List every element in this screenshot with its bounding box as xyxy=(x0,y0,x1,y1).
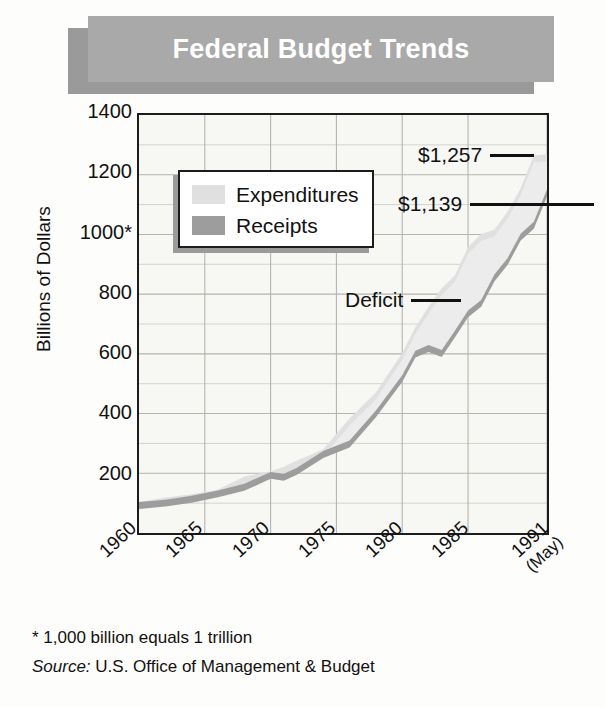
annotation-deficit: Deficit xyxy=(345,288,461,312)
annotation-expenditures-value: $1,257 xyxy=(418,143,534,167)
annotation-leader-line xyxy=(411,299,461,302)
footnotes: * 1,000 billion equals 1 trillion Source… xyxy=(32,628,572,677)
y-tick-label: 800 xyxy=(12,281,132,304)
y-tick-label: 1400 xyxy=(12,100,132,123)
annotation-deficit-text: Deficit xyxy=(345,288,403,312)
legend-swatch-receipts xyxy=(192,216,225,235)
annotation-leader-line xyxy=(470,203,594,206)
footnote-asterisk: * 1,000 billion equals 1 trillion xyxy=(32,628,572,648)
annotation-expenditures-text: $1,257 xyxy=(418,143,482,167)
x-axis-ticks: 1960196519701975198019851991(May) xyxy=(0,540,605,620)
y-tick-label: 1000* xyxy=(12,221,132,244)
legend-item-receipts: Receipts xyxy=(192,210,372,241)
footnote-source-text: U.S. Office of Management & Budget xyxy=(91,657,375,676)
chart-container: 140012001000*800600400200 Billions of Do… xyxy=(0,0,605,707)
y-axis-ticks: 140012001000*800600400200 xyxy=(6,113,132,535)
legend-label-receipts: Receipts xyxy=(236,214,318,238)
legend-label-expenditures: Expenditures xyxy=(236,183,359,207)
legend-item-expenditures: Expenditures xyxy=(192,179,372,210)
y-tick-label: 400 xyxy=(12,401,132,424)
y-tick-label: 1200 xyxy=(12,160,132,183)
y-tick-label: 600 xyxy=(12,341,132,364)
y-tick-label: 200 xyxy=(12,462,132,485)
y-axis-title: Billions of Dollars xyxy=(33,159,55,399)
annotation-receipts-text: $1,139 xyxy=(398,192,462,216)
footnote-source: Source: U.S. Office of Management & Budg… xyxy=(32,657,572,677)
chart-legend: Expenditures Receipts xyxy=(178,170,374,248)
annotation-receipts-value: $1,139 xyxy=(398,192,594,216)
legend-swatch-expenditures xyxy=(192,185,225,204)
annotation-leader-line xyxy=(490,154,534,157)
footnote-source-label: Source: xyxy=(32,657,91,676)
